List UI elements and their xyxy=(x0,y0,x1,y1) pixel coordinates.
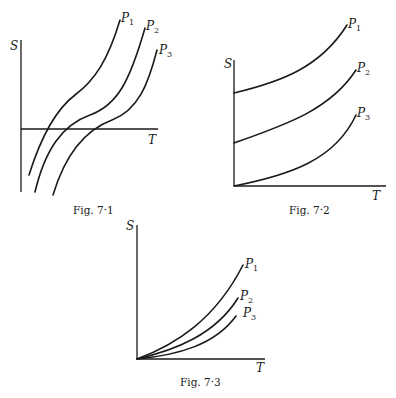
curve-label-p1: P1 xyxy=(120,11,134,27)
curve-label-p1: P1 xyxy=(244,257,258,273)
figure-caption: Fig. 7·2 xyxy=(289,204,330,216)
curve-label-p3: P3 xyxy=(356,106,370,122)
s-axis-label: S xyxy=(224,57,232,71)
figure-caption: Fig. 7·1 xyxy=(73,204,114,216)
t-axis-label: T xyxy=(148,133,157,147)
curve-p1 xyxy=(29,20,120,175)
t-axis-label: T xyxy=(372,189,381,203)
figure-canvas: S T P1 P2 P3 Fig. 7·1 S T P1 P2 P3 Fig. … xyxy=(0,0,396,398)
curve-label-p2: P2 xyxy=(239,289,253,305)
figure-7-1: S T P1 P2 P3 Fig. 7·1 xyxy=(10,11,172,216)
curve-label-p2: P2 xyxy=(145,19,159,35)
t-axis-label: T xyxy=(256,361,265,375)
curve-p3 xyxy=(53,50,157,195)
curve-label-p1: P1 xyxy=(347,17,361,33)
s-axis-label: S xyxy=(10,39,18,53)
curve-label-p3: P3 xyxy=(158,43,172,59)
figure-7-2: S T P1 P2 P3 Fig. 7·2 xyxy=(224,17,386,216)
curve-p3 xyxy=(234,115,356,186)
curve-p2 xyxy=(234,70,356,143)
curve-label-p2: P2 xyxy=(356,61,370,77)
s-axis-label: S xyxy=(126,219,134,233)
figure-7-3: S T P1 P2 P3 Fig. 7·3 xyxy=(126,219,265,388)
curve-label-p3: P3 xyxy=(242,306,256,322)
figure-caption: Fig. 7·3 xyxy=(180,376,221,388)
curve-p1 xyxy=(234,25,347,93)
